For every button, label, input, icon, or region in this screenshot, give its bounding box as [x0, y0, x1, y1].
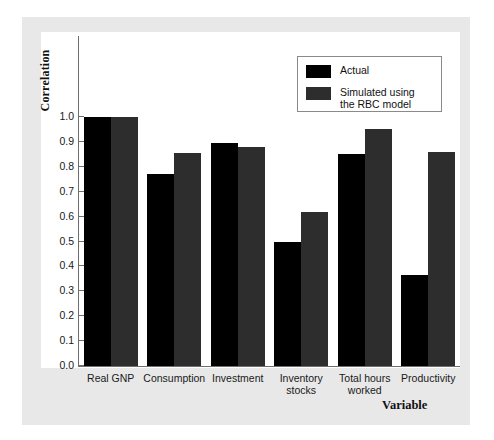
y-tick: 0.9	[48, 136, 84, 148]
y-tick-label: 0.2	[59, 309, 74, 321]
legend-label-simulated: Simulated using the RBC model	[340, 86, 415, 110]
y-tick: 0.1	[48, 335, 84, 347]
y-tick: 0.7	[48, 186, 84, 198]
x-tick-label: Inventory stocks	[270, 372, 334, 396]
bar-simulated	[238, 147, 265, 366]
x-tick-label: Total hours worked	[333, 372, 397, 396]
y-tick-label: 0.1	[59, 334, 74, 346]
y-tick-label: 0.8	[59, 160, 74, 172]
bar-simulated	[365, 129, 392, 366]
bar-simulated	[428, 152, 455, 366]
bar-actual	[401, 275, 428, 366]
legend-swatch-simulated	[306, 87, 331, 100]
legend-swatch-actual	[306, 65, 331, 78]
legend-item-simulated: Simulated using the RBC model	[306, 86, 415, 110]
x-tick-label: Productivity	[397, 372, 461, 384]
bar-actual	[338, 154, 365, 366]
y-tick: 0.0	[48, 360, 84, 372]
x-axis-line	[78, 366, 460, 367]
y-tick: 0.2	[48, 310, 84, 322]
y-tick-label: 0.7	[59, 185, 74, 197]
y-tick: 0.5	[48, 236, 84, 248]
y-tick-label: 0.4	[59, 259, 74, 271]
chart-figure: Correlation Variable 0.00.10.20.30.40.50…	[0, 0, 494, 440]
y-tick-label: 0.3	[59, 284, 74, 296]
y-tick-label: 0.5	[59, 235, 74, 247]
chart-legend: Actual Simulated using the RBC model	[297, 56, 442, 112]
x-tick-label: Real GNP	[79, 372, 143, 384]
bar-actual	[274, 242, 301, 367]
x-axis-title: Variable	[382, 398, 427, 413]
bar-simulated	[301, 212, 328, 366]
y-tick: 1.0	[48, 111, 84, 123]
y-tick-label: 1.0	[59, 110, 74, 122]
bar-simulated	[111, 117, 138, 366]
y-tick-label: 0.9	[59, 135, 74, 147]
y-tick-label: 0.0	[59, 359, 74, 371]
legend-item-actual: Actual	[306, 64, 369, 78]
bar-actual	[147, 174, 174, 366]
y-tick: 0.4	[48, 260, 84, 272]
bar-actual	[211, 143, 238, 366]
y-tick: 0.6	[48, 211, 84, 223]
y-tick: 0.8	[48, 161, 84, 173]
x-tick-label: Investment	[206, 372, 270, 384]
bar-simulated	[174, 153, 201, 366]
legend-label-actual: Actual	[340, 64, 369, 76]
x-tick-label: Consumption	[143, 372, 207, 384]
y-tick-label: 0.6	[59, 210, 74, 222]
bar-actual	[84, 117, 111, 366]
y-tick: 0.3	[48, 285, 84, 297]
